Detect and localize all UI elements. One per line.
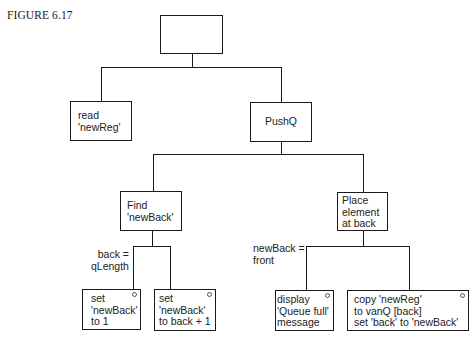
connector — [306, 246, 307, 291]
condition-newback-equals-front: newBack = front — [253, 243, 305, 266]
connector — [409, 246, 410, 291]
read-newreg-box: read 'newReg' — [70, 101, 132, 141]
copy-newreg-text: copy 'newReg' to vanQ [back] set 'back' … — [354, 294, 458, 329]
place-element-text: Place element at back — [342, 195, 379, 230]
read-newreg-text: read 'newReg' — [78, 110, 121, 133]
display-queue-full-text: display 'Queue full' message — [277, 294, 329, 329]
root-box — [160, 15, 223, 54]
pushq-text: PushQ — [251, 116, 311, 128]
copy-newreg-box: copy 'newReg' to vanQ [back] set 'back' … — [347, 290, 469, 331]
connector — [192, 53, 193, 68]
connector — [281, 67, 282, 102]
selection-circle-icon — [460, 293, 465, 298]
place-element-box: Place element at back — [337, 192, 388, 231]
find-newback-text: Find 'newBack' — [127, 200, 174, 223]
connector — [133, 246, 171, 247]
set-newback-to-back-plus-1-text: set 'newBack' to back + 1 — [159, 293, 211, 328]
connector — [133, 246, 134, 290]
connector — [153, 154, 154, 192]
connector — [152, 230, 153, 246]
set-newback-to-back-plus-1-box: set 'newBack' to back + 1 — [154, 289, 216, 331]
connector — [170, 246, 171, 290]
display-queue-full-box: display 'Queue full' message — [275, 290, 334, 331]
connector — [101, 67, 282, 68]
set-newback-to-1-text: set 'newBack' to 1 — [91, 293, 138, 328]
find-newback-box: Find 'newBack' — [120, 191, 182, 231]
pushq-box: PushQ — [250, 102, 312, 142]
connector — [363, 154, 364, 192]
connector — [101, 67, 102, 102]
figure-label: FIGURE 6.17 — [7, 9, 73, 21]
condition-back-equals-qlength: back = qLength — [91, 249, 129, 272]
connector — [363, 230, 364, 247]
connector — [153, 154, 364, 155]
set-newback-to-1-box: set 'newBack' to 1 — [82, 289, 141, 330]
connector — [306, 246, 410, 247]
connector — [281, 141, 282, 155]
